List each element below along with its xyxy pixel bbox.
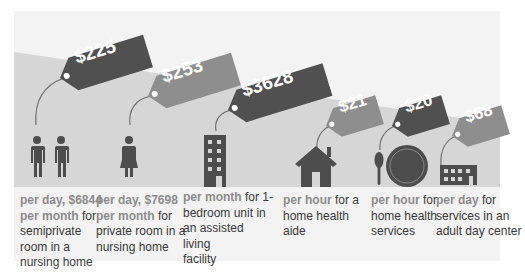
caption-3-text-b: bedroom unit in <box>183 206 266 220</box>
caption-2-highlight-a: per day, $7698 <box>96 193 178 207</box>
caption-1-highlight-a: per day, $6844 <box>20 193 102 207</box>
apartment-building-icon <box>204 135 226 187</box>
caption-2-text-b: private room in a <box>96 224 185 238</box>
caption-1-highlight-b: per month <box>20 209 79 223</box>
caption-3-text-d: facility <box>183 252 216 266</box>
caption-3-highlight-a: per month <box>183 190 242 204</box>
caption-1-text-c: room in a <box>20 240 70 254</box>
caption-6: per day for services in an adult day cen… <box>436 193 525 240</box>
caption-3: per month for 1- bedroom unit in an assi… <box>183 190 273 268</box>
caption-6-text-b: services in an <box>436 209 509 223</box>
caption-6-text-c: adult day center <box>436 224 521 238</box>
caption-4-text-c: aide <box>283 224 306 238</box>
caption-2-highlight-b: per month <box>96 209 155 223</box>
caption-5-highlight-a: per hour <box>371 193 420 207</box>
caption-2-text-a: for <box>155 209 172 223</box>
caption-4-text-b: home health <box>283 209 349 223</box>
caption-4-text-a: for a <box>332 193 359 207</box>
caption-1-text-d: nursing home <box>20 255 93 269</box>
caption-5-text-c: services <box>371 224 415 238</box>
caption-1-text-a: for <box>79 209 96 223</box>
caption-2: per day, $7698 per month for private roo… <box>96 193 186 255</box>
low-building-icon <box>440 165 477 185</box>
caption-5-text-a: for <box>420 193 437 207</box>
caption-2-text-c: nursing home <box>96 240 169 254</box>
caption-6-text-a: for <box>479 193 496 207</box>
caption-1-text-b: semiprivate <box>20 224 81 238</box>
caption-4-highlight-a: per hour <box>283 193 332 207</box>
caption-3-text-a: for 1- <box>242 190 273 204</box>
caption-4: per hour for a home health aide <box>283 193 363 240</box>
caption-5: per hour for home health services <box>371 193 441 240</box>
caption-5-text-b: home health <box>371 209 437 223</box>
caption-6-highlight-a: per day <box>436 193 479 207</box>
caption-3-text-c: an assisted living <box>183 221 244 251</box>
